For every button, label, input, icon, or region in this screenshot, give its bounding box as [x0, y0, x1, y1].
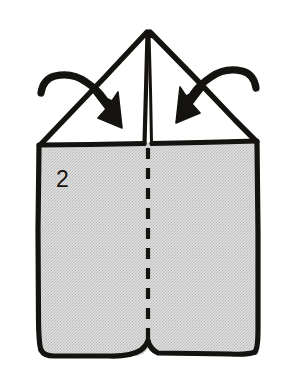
left-vertical-edge	[38, 146, 41, 350]
right-vertical-edge	[255, 142, 258, 352]
origami-diagram-container: 2	[0, 0, 296, 377]
horizontal-edge-right	[152, 141, 257, 144]
step-number-label: 2	[56, 166, 69, 192]
horizontal-edge-left	[39, 144, 144, 146]
origami-diagram-svg: 2	[0, 0, 296, 377]
